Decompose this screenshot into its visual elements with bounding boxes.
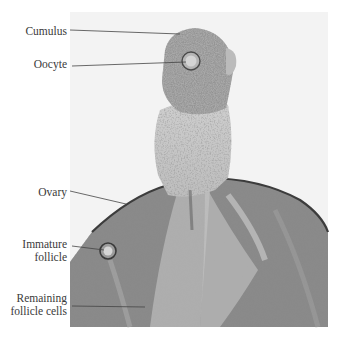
label-immature-follicle-line2: follicle	[22, 251, 67, 264]
micrograph-image	[0, 0, 339, 342]
label-ovary: Ovary	[38, 186, 67, 199]
label-cumulus-text: Cumulus	[25, 25, 67, 37]
label-oocyte-text: Oocyte	[34, 58, 67, 70]
label-ovary-text: Ovary	[38, 186, 67, 198]
oocyte-cell	[182, 52, 200, 70]
label-remaining-follicle-cells: Remaining follicle cells	[10, 292, 67, 318]
label-oocyte: Oocyte	[34, 58, 67, 71]
ovulation-micrograph-figure: Cumulus Oocyte Ovary Immature follicle R…	[0, 0, 339, 342]
label-cumulus: Cumulus	[25, 25, 67, 38]
label-remaining-follicle-cells-line1: Remaining	[10, 292, 67, 305]
label-immature-follicle: Immature follicle	[22, 238, 67, 264]
label-immature-follicle-line1: Immature	[22, 238, 67, 251]
label-remaining-follicle-cells-line2: follicle cells	[10, 305, 67, 318]
immature-follicle-cell	[100, 243, 116, 259]
